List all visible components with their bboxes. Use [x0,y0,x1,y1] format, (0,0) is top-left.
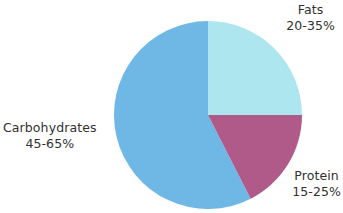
pie-label-carbohydrates: Carbohydrates 45-65% [3,120,97,151]
pie-label-fats-value: 20-35% [286,18,335,34]
pie-chart-figure: Fats 20-35% Protein 15-25% Carbohydrates… [0,0,343,213]
pie-label-carbohydrates-name: Carbohydrates [3,120,97,136]
pie-label-protein: Protein 15-25% [292,168,341,199]
pie-label-protein-value: 15-25% [292,184,341,200]
pie-label-protein-name: Protein [292,168,341,184]
pie-label-fats: Fats 20-35% [286,2,335,33]
pie-slice-fats[interactable] [208,21,302,115]
pie-label-carbohydrates-value: 45-65% [3,136,97,152]
pie-label-fats-name: Fats [286,2,335,18]
pie-slices [114,21,302,209]
